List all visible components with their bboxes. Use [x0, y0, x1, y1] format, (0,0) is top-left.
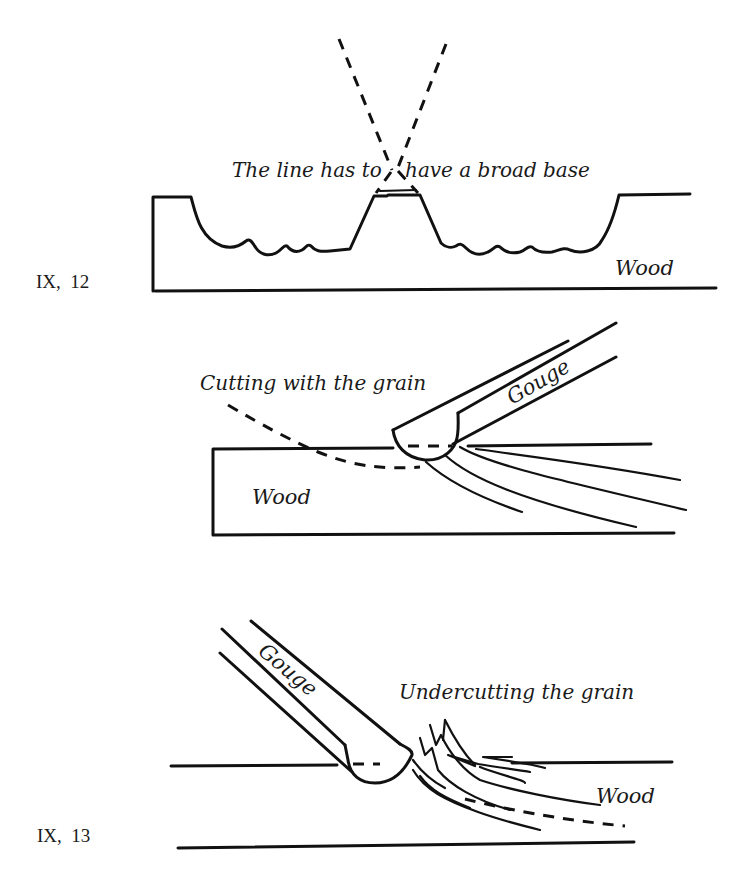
gouge-tip [393, 413, 458, 460]
dashed-cut-path [228, 405, 420, 468]
dashed-guide-line-right [397, 44, 446, 170]
ridge-top-line [380, 190, 416, 191]
wood-top-line-right [512, 762, 672, 763]
label-wood-middle: Wood [252, 485, 311, 509]
figure-undercutting-grain: Gouge Undercutting the grain Wood [171, 621, 672, 848]
wood-bottom-line [178, 842, 634, 848]
wood-top-surface-right [468, 444, 651, 446]
wood-bottom-line [155, 288, 716, 291]
figure-cutting-with-grain: Gouge Cutting with the grain Wood [200, 323, 686, 535]
figure-number-ix-12: IX, 12 [36, 271, 89, 292]
wood-profile-outline [153, 194, 690, 291]
caption-broad-base-left: The line has to [232, 158, 382, 182]
figure-broad-base-section: The line has to have a broad base Wood [153, 39, 716, 291]
caption-undercutting-grain: Undercutting the grain [399, 680, 634, 704]
splinter-fiber [430, 725, 600, 805]
label-wood-bottom: Wood [596, 784, 655, 808]
splinter-fiber [420, 776, 470, 808]
dashed-guide-line-left [339, 39, 392, 170]
figure-number-ix-13: IX, 13 [37, 825, 90, 846]
wood-carving-diagram: The line has to have a broad base Wood I… [0, 0, 737, 876]
wood-fiber [426, 462, 522, 512]
label-wood-top: Wood [615, 256, 674, 280]
wood-top-line-left [171, 765, 337, 766]
label-gouge-middle: Gouge [503, 354, 575, 409]
caption-cutting-with-grain: Cutting with the grain [200, 371, 426, 395]
caption-broad-base-right: have a broad base [405, 158, 590, 182]
splinter-fiber [443, 720, 445, 740]
